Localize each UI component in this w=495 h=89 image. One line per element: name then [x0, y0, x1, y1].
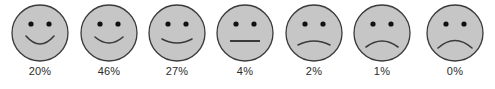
face-rating-option-4[interactable]: 4% [211, 0, 279, 89]
right-eye [46, 21, 51, 26]
face-happy-icon [79, 2, 139, 64]
face-circle [81, 5, 137, 61]
right-eye [251, 21, 256, 26]
face-rating-option-5[interactable]: 2% [280, 0, 348, 89]
satisfaction-face-rating-scale: 20%46%27%4%2%1%0% [0, 0, 495, 89]
face-rating-option-1[interactable]: 20% [6, 0, 74, 89]
left-eye [28, 21, 33, 26]
face-neutral-icon [215, 2, 275, 64]
face-slightly-sad-icon [284, 2, 344, 64]
left-eye [370, 21, 375, 26]
left-eye [233, 21, 238, 26]
face-rating-option-3[interactable]: 27% [143, 0, 211, 89]
left-eye [165, 21, 170, 26]
face-percentage-label: 1% [374, 65, 390, 77]
face-percentage-label: 4% [237, 65, 253, 77]
face-very-sad-icon [425, 2, 485, 64]
face-percentage-label: 27% [166, 65, 189, 77]
face-circle [354, 5, 410, 61]
face-rating-option-2[interactable]: 46% [75, 0, 143, 89]
face-very-happy-icon [10, 2, 70, 64]
face-circle [149, 5, 205, 61]
left-eye [302, 21, 307, 26]
face-circle [286, 5, 342, 61]
right-eye [183, 21, 188, 26]
left-eye [97, 21, 102, 26]
right-eye [461, 21, 466, 26]
face-circle [12, 5, 68, 61]
right-eye [115, 21, 120, 26]
face-rating-option-6[interactable]: 1% [348, 0, 416, 89]
face-slightly-happy-icon [147, 2, 207, 64]
face-sad-icon [352, 2, 412, 64]
face-circle [427, 5, 483, 61]
left-eye [443, 21, 448, 26]
face-percentage-label: 0% [447, 65, 463, 77]
face-rating-option-7[interactable]: 0% [421, 0, 489, 89]
right-eye [388, 21, 393, 26]
face-circle [217, 5, 273, 61]
right-eye [320, 21, 325, 26]
face-percentage-label: 46% [98, 65, 121, 77]
face-percentage-label: 2% [306, 65, 322, 77]
face-percentage-label: 20% [29, 65, 52, 77]
